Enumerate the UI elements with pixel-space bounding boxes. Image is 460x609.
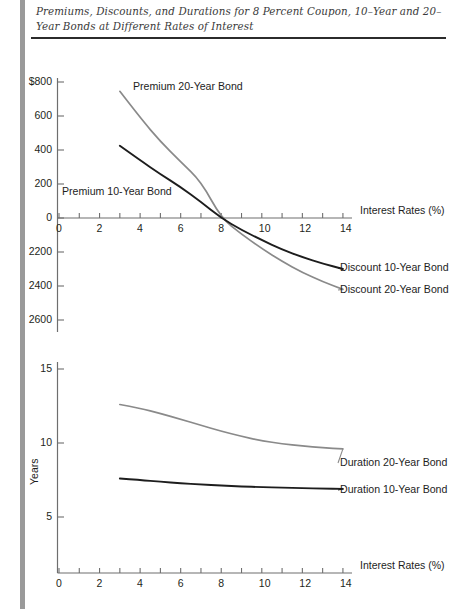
y-tick-label: 2600 bbox=[29, 313, 52, 325]
x-tick-label-bottom: 6 bbox=[178, 577, 184, 589]
y-tick-label-bottom: 5 bbox=[46, 510, 52, 522]
y-tick-label: 2400 bbox=[29, 279, 52, 291]
x-tick-label: 4 bbox=[137, 222, 143, 234]
annotation-discount-10-year: Discount 10-Year Bond bbox=[340, 261, 449, 273]
y-tick-label: $800 bbox=[29, 75, 52, 87]
y-tick-label: 600 bbox=[34, 109, 52, 121]
annotation-duration-20-year: Duration 20-Year Bond bbox=[340, 456, 447, 468]
annotation-discount-20-year: Discount 20-Year Bond bbox=[340, 283, 449, 295]
x-tick-label: 8 bbox=[218, 222, 224, 234]
x-tick-label: 10 bbox=[259, 222, 271, 234]
series-curve-duration-10-year-bond bbox=[120, 479, 343, 489]
x-tick-label-bottom: 0 bbox=[56, 577, 62, 589]
x-tick-label-bottom: 2 bbox=[97, 577, 103, 589]
figure-page: Premiums, Discounts, and Durations for 8… bbox=[0, 0, 460, 609]
y-tick-label: 200 bbox=[34, 177, 52, 189]
series-curve-duration-20-year-bond bbox=[120, 405, 343, 449]
y-tick-label: 0 bbox=[46, 211, 52, 223]
x-axis-title-top: Interest Rates (%) bbox=[360, 204, 445, 216]
annotation-duration-10-year: Duration 10-Year Bond bbox=[340, 483, 447, 495]
x-tick-label: 12 bbox=[299, 222, 311, 234]
y-tick-label-bottom: 10 bbox=[40, 436, 52, 448]
x-tick-label-bottom: 4 bbox=[137, 577, 143, 589]
x-tick-label-bottom: 12 bbox=[299, 577, 311, 589]
x-axis-title-bottom: Interest Rates (%) bbox=[360, 559, 445, 571]
x-tick-label: 2 bbox=[97, 222, 103, 234]
x-tick-label-bottom: 14 bbox=[340, 577, 352, 589]
y-tick-label-bottom: 15 bbox=[40, 362, 52, 374]
annotation-premium-20-year: Premium 20-Year Bond bbox=[133, 80, 243, 92]
y-axis-title-years: Years bbox=[28, 459, 40, 485]
y-tick-label: 400 bbox=[34, 143, 52, 155]
x-tick-label: 14 bbox=[340, 222, 352, 234]
y-tick-label: 2200 bbox=[29, 245, 52, 257]
premium-discount-chart bbox=[58, 78, 353, 332]
annotation-premium-10-year: Premium 10-Year Bond bbox=[62, 185, 172, 197]
x-tick-label: 6 bbox=[178, 222, 184, 234]
x-tick-label-bottom: 10 bbox=[259, 577, 271, 589]
x-tick-label-bottom: 8 bbox=[218, 577, 224, 589]
series-curve-premium-10-year-bond bbox=[120, 146, 343, 269]
x-tick-label: 0 bbox=[56, 222, 62, 234]
duration-chart bbox=[58, 362, 353, 573]
